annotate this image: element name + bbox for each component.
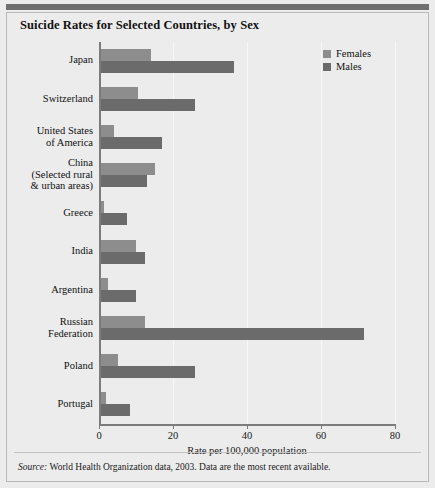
category-label: United Statesof America: [0, 125, 93, 148]
gridline: [247, 42, 248, 424]
x-tick-label: 20: [168, 430, 179, 441]
x-axis-label: Rate per 100,000 population: [99, 445, 395, 456]
category-label: Japan: [0, 54, 93, 66]
category-label: RussianFederation: [0, 316, 93, 339]
x-tick-label: 60: [316, 430, 327, 441]
legend-swatch-females-icon: [323, 50, 331, 58]
bar-females: [99, 163, 155, 175]
legend-item-females: Females: [323, 48, 371, 59]
bar-females: [99, 240, 136, 252]
source-note: Source: World Health Organization data, …: [18, 462, 330, 472]
x-tick: [395, 424, 396, 429]
gridline: [395, 42, 396, 424]
category-label: Portugal: [0, 398, 93, 410]
y-axis-line: [99, 42, 101, 425]
category-label: Switzerland: [0, 93, 93, 105]
bar-males: [99, 99, 195, 111]
bar-males: [99, 213, 127, 225]
bar-males: [99, 175, 147, 187]
bar-females: [99, 49, 151, 61]
bar-males: [99, 252, 145, 264]
legend-label-males: Males: [336, 61, 362, 72]
x-tick: [321, 424, 322, 429]
legend-swatch-males-icon: [323, 63, 331, 71]
bar-males: [99, 61, 234, 73]
bar-males: [99, 328, 364, 340]
bar-females: [99, 125, 114, 137]
chart-legend: Females Males: [323, 48, 371, 74]
x-tick: [99, 424, 100, 429]
x-tick-label: 0: [96, 430, 101, 441]
figure-container: Suicide Rates for Selected Countries, by…: [0, 0, 435, 488]
bar-males: [99, 290, 136, 302]
bar-males: [99, 366, 195, 378]
bar-females: [99, 87, 138, 99]
category-label: Greece: [0, 207, 93, 219]
bar-males: [99, 137, 162, 149]
legend-label-females: Females: [336, 48, 371, 59]
top-rule-decoration: [6, 4, 429, 10]
bar-females: [99, 316, 145, 328]
category-label: India: [0, 245, 93, 257]
legend-item-males: Males: [323, 61, 371, 72]
x-tick: [173, 424, 174, 429]
gridline: [321, 42, 322, 424]
x-tick-label: 80: [390, 430, 401, 441]
category-label: China(Selected rural& urban areas): [0, 157, 93, 192]
footer-divider: [14, 452, 421, 453]
category-label: Poland: [0, 360, 93, 372]
source-prefix: Source:: [18, 462, 47, 472]
category-label: Argentina: [0, 284, 93, 296]
x-tick-label: 40: [242, 430, 253, 441]
chart-title: Suicide Rates for Selected Countries, by…: [20, 18, 259, 33]
bar-females: [99, 354, 118, 366]
x-tick: [247, 424, 248, 429]
bar-males: [99, 404, 130, 416]
source-text: World Health Organization data, 2003. Da…: [49, 462, 330, 472]
